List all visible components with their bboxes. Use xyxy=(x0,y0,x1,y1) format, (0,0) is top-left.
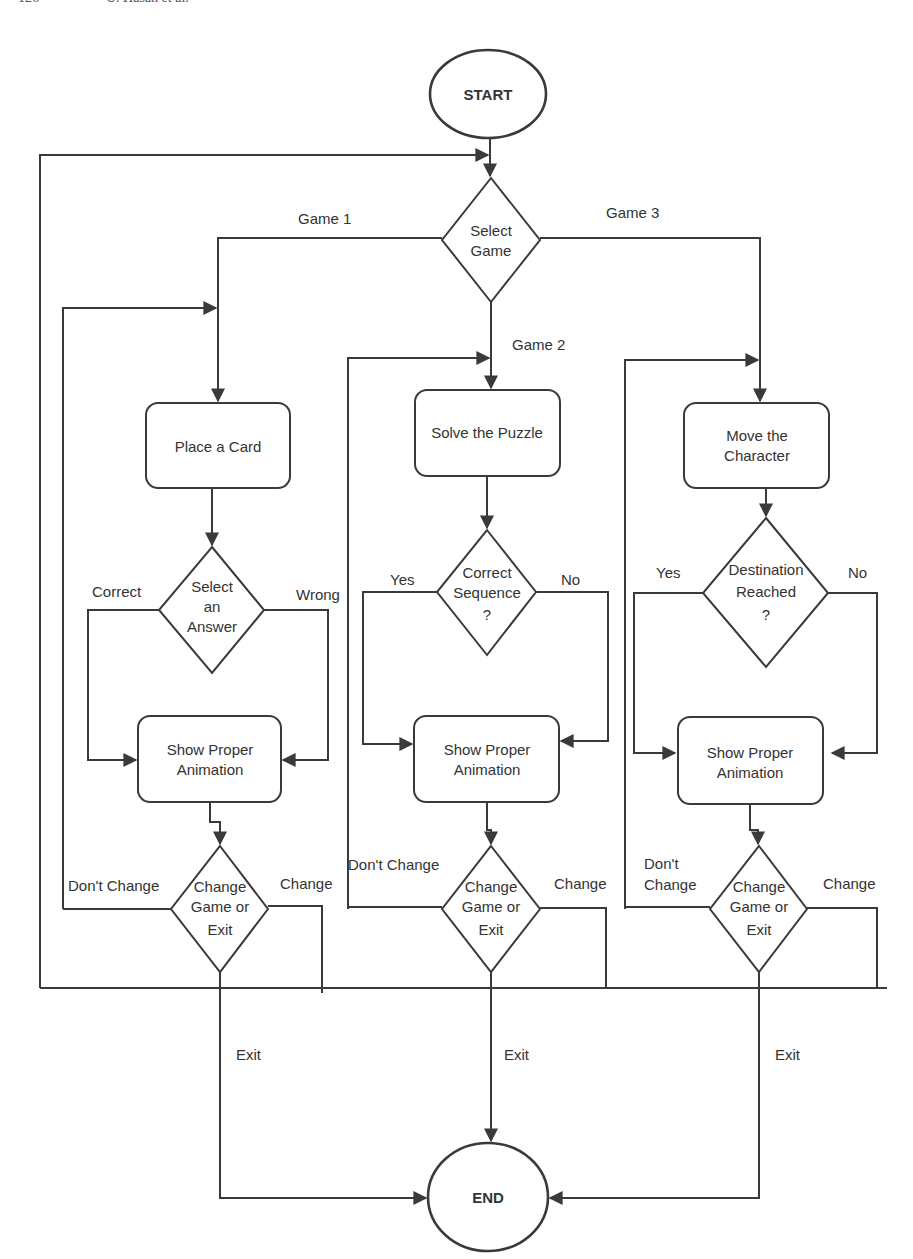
game3-exit-decision-line-3: Exit xyxy=(746,921,772,938)
game2-action-text: Solve the Puzzle xyxy=(431,424,543,441)
game3-label: Game 3 xyxy=(606,204,659,221)
game2-action-box: Solve the Puzzle xyxy=(415,390,560,476)
game1-decision-line-1: Select xyxy=(191,578,234,595)
game1-decision-line-2: an xyxy=(204,598,221,615)
game1-change-label: Change xyxy=(280,875,333,892)
game2-animation-line-2: Animation xyxy=(454,761,521,778)
game1-exit-decision: Change Game or Exit xyxy=(171,846,268,972)
game1-change-path xyxy=(268,906,322,993)
game3-exit-decision: Change Game or Exit xyxy=(710,846,807,972)
game2-animation-box: Show Proper Animation xyxy=(414,716,559,802)
game2-arrow-to-exit-decision xyxy=(487,802,491,844)
game2-change-label: Change xyxy=(554,875,607,892)
game2-change-path xyxy=(540,908,606,988)
game1-action-text: Place a Card xyxy=(175,438,262,455)
game1-answer-decision: Select an Answer xyxy=(159,547,264,673)
game3-exit-path xyxy=(550,972,759,1198)
game3-destination-decision: Destination Reached ? xyxy=(703,518,828,667)
game3-exit-label: Exit xyxy=(775,1046,801,1063)
game2-exit-label: Exit xyxy=(504,1046,530,1063)
game1-exit-path xyxy=(220,972,426,1198)
game3-action-line-1: Move the xyxy=(726,427,788,444)
game3-exit-decision-line-2: Game or xyxy=(730,898,788,915)
game1-correct-label: Correct xyxy=(92,583,142,600)
end-terminal: END xyxy=(428,1143,548,1251)
game2-label: Game 2 xyxy=(512,336,565,353)
game1-decision-line-3: Answer xyxy=(187,618,237,635)
game1-animation-line-1: Show Proper xyxy=(167,741,254,758)
game1-action-box: Place a Card xyxy=(146,403,290,488)
game3-change-label: Change xyxy=(823,875,876,892)
game3-animation-box: Show Proper Animation xyxy=(678,717,823,804)
game3-dont-change-label-line-1: Don't xyxy=(644,855,679,872)
game2-animation-line-1: Show Proper xyxy=(444,741,531,758)
game3-animation-line-2: Animation xyxy=(717,764,784,781)
flowchart: START Select Game Game 1 Game 2 Game 3 P… xyxy=(0,0,913,1259)
game1-exit-decision-line-2: Game or xyxy=(191,898,249,915)
game1-animation-line-2: Animation xyxy=(177,761,244,778)
game1-arrow-to-exit-decision xyxy=(210,802,220,844)
select-game-line-2: Game xyxy=(471,242,512,259)
game1-exit-label: Exit xyxy=(236,1046,262,1063)
game3-yes-label: Yes xyxy=(656,564,680,581)
game3-arrow-to-exit-decision xyxy=(750,804,758,844)
game1-dont-change-label: Don't Change xyxy=(68,877,159,894)
game3-exit-decision-line-1: Change xyxy=(733,878,786,895)
game3-action-box: Move the Character xyxy=(684,403,829,488)
game1-animation-box: Show Proper Animation xyxy=(138,716,281,802)
game3-dont-change-label-line-2: Change xyxy=(644,876,697,893)
game2-exit-decision: Change Game or Exit xyxy=(442,846,540,972)
game3-action-line-2: Character xyxy=(724,447,790,464)
game1-exit-decision-line-1: Change xyxy=(194,878,247,895)
game3-change-path xyxy=(807,908,877,988)
game3-animation-line-1: Show Proper xyxy=(707,744,794,761)
game2-decision-line-2: Sequence xyxy=(453,584,521,601)
game2-decision-line-1: Correct xyxy=(462,564,512,581)
game2-exit-decision-line-3: Exit xyxy=(478,921,504,938)
game3-branch-line xyxy=(540,238,760,401)
game3-decision-line-2: Reached xyxy=(736,583,796,600)
select-game-line-1: Select xyxy=(470,222,513,239)
select-game-decision: Select Game xyxy=(442,178,540,302)
game2-exit-decision-line-2: Game or xyxy=(462,898,520,915)
game2-yes-label: Yes xyxy=(390,571,414,588)
game2-no-label: No xyxy=(561,571,580,588)
game3-decision-line-1: Destination xyxy=(728,561,803,578)
game2-exit-decision-line-1: Change xyxy=(465,878,518,895)
start-terminal: START xyxy=(430,50,546,138)
game1-label: Game 1 xyxy=(298,210,351,227)
game1-exit-decision-line-3: Exit xyxy=(207,921,233,938)
start-label: START xyxy=(464,86,513,103)
game3-decision-line-3: ? xyxy=(762,606,770,623)
game3-no-path xyxy=(828,593,877,753)
game1-branch-line xyxy=(218,238,442,401)
end-label: END xyxy=(472,1189,504,1206)
game2-dont-change-label: Don't Change xyxy=(348,856,439,873)
game1-wrong-label: Wrong xyxy=(296,586,340,603)
game2-sequence-decision: Correct Sequence ? xyxy=(437,530,536,655)
game2-decision-line-3: ? xyxy=(483,606,491,623)
game3-no-label: No xyxy=(848,564,867,581)
